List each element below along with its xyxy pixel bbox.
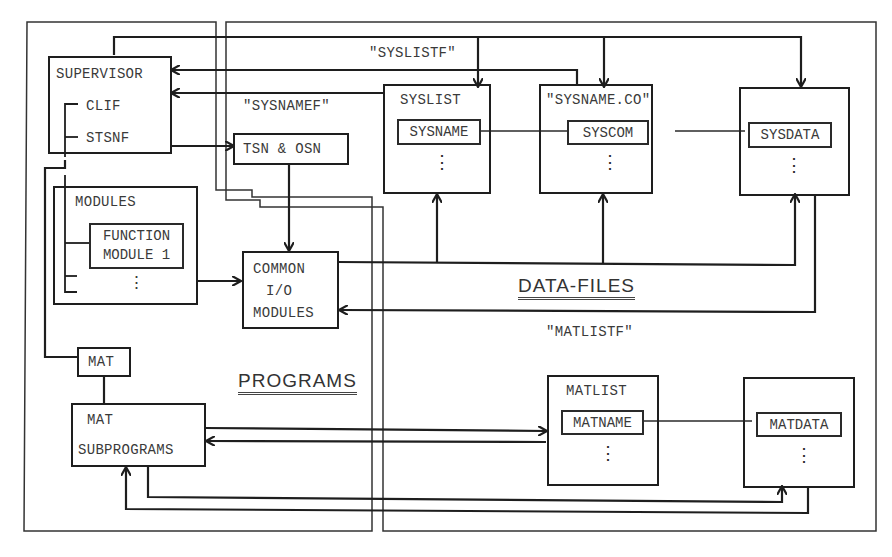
- syslist-box: SYSLIST SYSNAME ⋮: [383, 84, 491, 194]
- sysname-co-more-ellipsis: ⋮: [601, 154, 611, 172]
- matdata-field: MATDATA: [756, 412, 842, 437]
- modules-more-ellipsis: ⋮: [128, 272, 145, 293]
- matlist-title: MATLIST: [566, 383, 627, 399]
- matdata-box: MATDATA ⋮: [743, 377, 855, 488]
- mat-label: MAT: [88, 354, 114, 370]
- common-io-line-2: I/O: [266, 283, 292, 299]
- matlist-more-ellipsis: ⋮: [599, 445, 609, 463]
- common-io-line-3: MODULES: [253, 305, 314, 321]
- function-module-line-1: FUNCTION: [103, 227, 170, 246]
- supervisor-item-clif: CLIF: [86, 98, 121, 114]
- syslist-more-ellipsis: ⋮: [433, 154, 443, 172]
- syslistf-label: "SYSLISTF": [369, 45, 456, 61]
- common-io-modules-box: COMMON I/O MODULES: [242, 251, 339, 329]
- supervisor-item-stsnf: STSNF: [86, 130, 130, 146]
- matname-field: MATNAME: [561, 410, 644, 435]
- modules-title: MODULES: [75, 194, 136, 210]
- mat-subprograms-box: MAT SUBPROGRAMS: [71, 403, 206, 467]
- matlistf-label: "MATLISTF": [546, 324, 633, 340]
- mat-subprograms-line-2: SUBPROGRAMS: [78, 442, 174, 458]
- function-module-line-2: MODULE 1: [103, 246, 170, 265]
- mat-subprograms-line-1: MAT: [87, 412, 113, 428]
- tsn-osn-box: TSN & OSN: [233, 133, 349, 165]
- data-files-region-title: DATA-FILES: [518, 276, 635, 300]
- sysname-co-box: "SYSNAME.CO" SYSCOM ⋮: [539, 84, 653, 194]
- sysdata-more-ellipsis: ⋮: [785, 157, 795, 175]
- supervisor-box: SUPERVISOR CLIF STSNF: [48, 56, 172, 154]
- sysnamef-label: "SYSNAMEF": [243, 98, 330, 114]
- function-module-1-box: FUNCTION MODULE 1: [89, 223, 184, 269]
- tsn-osn-label: TSN & OSN: [243, 141, 321, 157]
- mat-box: MAT: [77, 347, 131, 377]
- sysname-co-title: "SYSNAME.CO": [546, 92, 650, 108]
- matlist-box: MATLIST MATNAME ⋮: [547, 375, 659, 486]
- modules-box: MODULES FUNCTION MODULE 1 ⋮: [53, 186, 198, 305]
- sysname-field: SYSNAME: [397, 119, 481, 145]
- supervisor-title: SUPERVISOR: [56, 66, 143, 82]
- sysdata-field: SYSDATA: [748, 122, 832, 148]
- common-io-line-1: COMMON: [253, 261, 305, 277]
- sysdata-box: SYSDATA ⋮: [739, 87, 850, 196]
- syscom-field: SYSCOM: [567, 120, 649, 145]
- programs-region-title: PROGRAMS: [238, 371, 357, 395]
- syslist-title: SYSLIST: [400, 92, 461, 108]
- matdata-more-ellipsis: ⋮: [795, 447, 805, 465]
